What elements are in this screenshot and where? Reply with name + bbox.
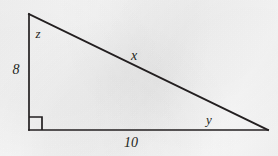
figure-canvas: z 8 x y 10 [0, 0, 278, 156]
side-label-8: 8 [13, 63, 20, 77]
triangle-hypotenuse [29, 14, 268, 130]
angle-label-y: y [206, 113, 212, 126]
right-angle-marker-icon [29, 117, 42, 130]
right-triangle-figure [0, 0, 278, 156]
side-label-10: 10 [124, 136, 138, 150]
angle-label-z: z [35, 27, 40, 40]
side-label-x: x [131, 49, 137, 63]
